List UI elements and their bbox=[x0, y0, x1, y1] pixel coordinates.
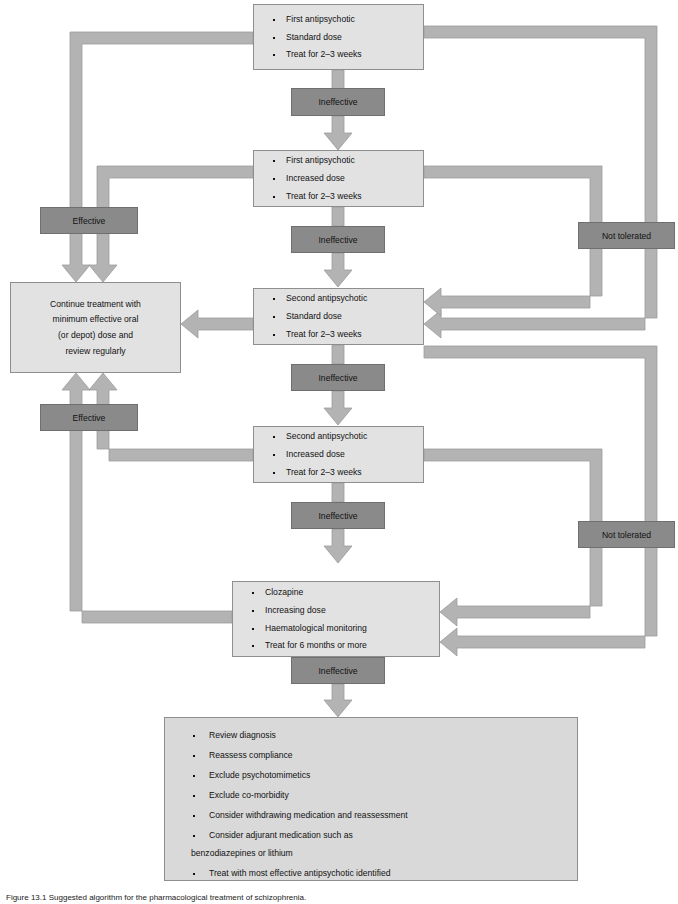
step-item: Treat for 6 months or more bbox=[249, 641, 433, 650]
step-item: Treat for 2–3 weeks bbox=[270, 468, 417, 477]
wire-step2-to-ineffective2 bbox=[332, 207, 344, 226]
step-item: Treat for 2–3 weeks bbox=[270, 50, 417, 59]
figure-caption: Figure 13.1 Suggested algorithm for the … bbox=[6, 893, 666, 902]
wire-step4-nottolerated-to-step5 bbox=[424, 449, 602, 626]
wire-step1-effective-to-continue bbox=[62, 32, 253, 282]
summary-item-line1: Consider adjurant medication such as bbox=[209, 830, 353, 840]
wire-ineffective5-to-summary bbox=[324, 684, 352, 717]
node-step-first-increased[interactable]: First antipsychotic Increased dose Treat… bbox=[253, 150, 424, 207]
node-review-summary[interactable]: Review diagnosis Reassess compliance Exc… bbox=[164, 717, 578, 881]
wire-ineffective3-to-step4 bbox=[324, 391, 352, 425]
node-step-second-increased[interactable]: Second antipsychotic Increased dose Trea… bbox=[253, 426, 424, 483]
node-continue-treatment[interactable]: Continue treatment with minimum effectiv… bbox=[10, 282, 181, 373]
step-item: Increased dose bbox=[270, 450, 417, 459]
flowchart-canvas: .w{fill:#b3b3b3;stroke:#9c9c9c;stroke-wi… bbox=[0, 0, 678, 904]
wire-ineffective2-to-step3 bbox=[324, 253, 352, 287]
wire-step2-nottolerated-to-step3 bbox=[424, 166, 602, 316]
node-step-second-standard[interactable]: Second antipsychotic Standard dose Treat… bbox=[253, 288, 424, 345]
step-item: First antipsychotic bbox=[270, 15, 417, 24]
wire-ineffective1-to-step2 bbox=[324, 116, 352, 150]
node-not-tolerated-upper[interactable]: Not tolerated bbox=[578, 222, 675, 249]
step-item: Haematological monitoring bbox=[249, 624, 433, 633]
wire-step1-to-ineffective1 bbox=[332, 70, 344, 89]
node-effective-upper[interactable]: Effective bbox=[40, 207, 138, 234]
step-item: Clozapine bbox=[249, 588, 433, 597]
summary-item: Exclude psychotomimetics bbox=[191, 771, 569, 780]
continue-line: review regularly bbox=[65, 347, 125, 356]
continue-line: Continue treatment with bbox=[50, 300, 141, 309]
wire-ineffective4-to-step5 bbox=[324, 529, 352, 563]
summary-item-line2: benzodiazepines or lithium bbox=[191, 849, 569, 858]
node-effective-lower[interactable]: Effective bbox=[40, 404, 138, 431]
summary-item: Treat with most effective antipsychotic … bbox=[191, 869, 569, 878]
node-ineffective-3[interactable]: Ineffective bbox=[291, 364, 385, 391]
wire-step4-to-ineffective4 bbox=[332, 483, 344, 502]
step-item: Treat for 2–3 weeks bbox=[270, 330, 417, 339]
step-item: Treat for 2–3 weeks bbox=[270, 192, 417, 201]
node-ineffective-4[interactable]: Ineffective bbox=[291, 502, 385, 529]
step-item: Increasing dose bbox=[249, 606, 433, 615]
wire-step3-to-ineffective3 bbox=[332, 345, 344, 364]
step-item: First antipsychotic bbox=[270, 156, 417, 165]
node-not-tolerated-lower[interactable]: Not tolerated bbox=[578, 521, 675, 548]
summary-item: Consider withdrawing medication and reas… bbox=[191, 811, 569, 820]
step-item: Second antipsychotic bbox=[270, 294, 417, 303]
wire-step1-nottolerated-to-step3 bbox=[424, 26, 657, 338]
step-item: Increased dose bbox=[270, 174, 417, 183]
summary-item: Exclude co-morbidity bbox=[191, 791, 569, 800]
node-step-clozapine[interactable]: Clozapine Increasing dose Haematological… bbox=[232, 581, 440, 657]
node-ineffective-1[interactable]: Ineffective bbox=[291, 88, 385, 116]
continue-line: minimum effective oral bbox=[53, 315, 139, 324]
node-ineffective-5[interactable]: Ineffective bbox=[291, 657, 385, 684]
step-item: Second antipsychotic bbox=[270, 432, 417, 441]
summary-item: Review diagnosis bbox=[191, 731, 569, 740]
summary-item: Reassess compliance bbox=[191, 751, 569, 760]
wire-step3-to-continue-left-arrow bbox=[181, 310, 253, 338]
step-item: Standard dose bbox=[270, 33, 417, 42]
node-step-first-standard[interactable]: First antipsychotic Standard dose Treat … bbox=[253, 4, 424, 70]
continue-line: (or depot) dose and bbox=[58, 331, 133, 340]
step-item: Standard dose bbox=[270, 312, 417, 321]
node-ineffective-2[interactable]: Ineffective bbox=[291, 226, 385, 253]
summary-item-wrapped: Consider adjurant medication such asbenz… bbox=[191, 831, 569, 858]
